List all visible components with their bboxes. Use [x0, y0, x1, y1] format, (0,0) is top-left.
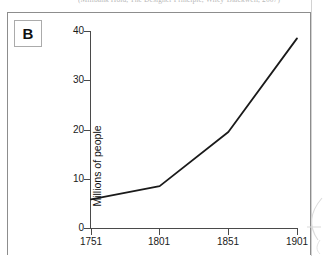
- plot-area: 40 30 20 10 0 Millions of people 1751 18…: [0, 0, 324, 256]
- series-svg: [0, 0, 324, 256]
- scan-artifact: [296, 196, 324, 256]
- population-line: [91, 38, 297, 199]
